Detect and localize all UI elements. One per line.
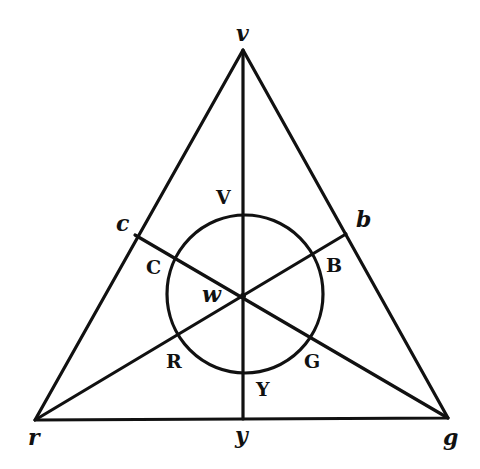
label-g: g bbox=[443, 426, 458, 448]
label-C: C bbox=[146, 258, 161, 277]
label-r: r bbox=[28, 426, 40, 448]
label-c: c bbox=[116, 212, 129, 234]
label-B: B bbox=[326, 256, 342, 275]
line-r-b bbox=[35, 234, 346, 420]
color-triangle-diagram bbox=[0, 0, 480, 469]
label-G: G bbox=[304, 352, 320, 371]
center-point-w bbox=[240, 293, 246, 299]
label-v: v bbox=[236, 22, 249, 44]
label-R: R bbox=[166, 352, 182, 371]
label-y: y bbox=[235, 424, 248, 446]
label-V: V bbox=[216, 188, 231, 207]
label-b: b bbox=[356, 208, 371, 230]
label-w: w bbox=[202, 283, 221, 305]
line-g-c bbox=[135, 235, 448, 418]
label-Y: Y bbox=[256, 380, 270, 399]
